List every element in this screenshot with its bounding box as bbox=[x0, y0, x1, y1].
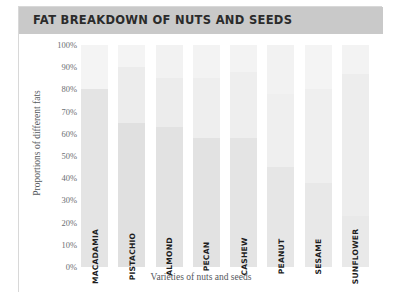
bar-segment-middle[interactable] bbox=[267, 94, 294, 167]
y-axis-tick: 10% bbox=[41, 240, 77, 250]
x-axis-category-label: PEANUT bbox=[276, 239, 285, 275]
y-axis-tick: 60% bbox=[41, 129, 77, 139]
y-axis-tick: 50% bbox=[41, 151, 77, 161]
y-axis-tick: 30% bbox=[41, 195, 77, 205]
y-axis-tick: 0% bbox=[41, 262, 77, 272]
y-axis-tick: 20% bbox=[41, 218, 77, 228]
y-axis-tick-labels: 100%90%80%70%60%50%40%30%20%10%0% bbox=[41, 45, 77, 267]
bar-column[interactable]: SUNFLOWER bbox=[342, 45, 369, 267]
bar-segment-top[interactable] bbox=[193, 45, 220, 78]
chart-title-band: FAT BREAKDOWN OF NUTS AND SEEDS bbox=[19, 7, 383, 34]
x-axis-category-label: CASHEW bbox=[239, 237, 248, 275]
bar-segment-top[interactable] bbox=[81, 45, 108, 89]
bar-column[interactable]: PECAN bbox=[193, 45, 220, 267]
y-axis-tick: 100% bbox=[41, 40, 77, 50]
x-axis-category-label: SESAME bbox=[314, 239, 323, 275]
bar-segment-middle[interactable] bbox=[230, 72, 257, 139]
bar-segment-middle[interactable] bbox=[118, 67, 145, 123]
x-axis-category-label: ALMOND bbox=[165, 237, 174, 276]
x-axis-category-label: PECAN bbox=[202, 242, 211, 272]
bar-segment-top[interactable] bbox=[305, 45, 332, 89]
plot-area: Proportions of different fats 100%90%80%… bbox=[19, 34, 383, 293]
bar-column[interactable]: PISTACHIO bbox=[118, 45, 145, 267]
bar-column[interactable]: MACADAMIA bbox=[81, 45, 108, 267]
bar-segment-top[interactable] bbox=[156, 45, 183, 78]
bar-column[interactable]: PEANUT bbox=[267, 45, 294, 267]
bar-segment-top[interactable] bbox=[230, 45, 257, 72]
bar-segment-top[interactable] bbox=[342, 45, 369, 74]
y-axis-tick: 40% bbox=[41, 173, 77, 183]
bar-segment-middle[interactable] bbox=[342, 74, 369, 216]
bar-segment-top[interactable] bbox=[267, 45, 294, 94]
x-axis-title: Varieties of nuts and seeds bbox=[19, 272, 383, 282]
chart-card: FAT BREAKDOWN OF NUTS AND SEEDS Proporti… bbox=[18, 6, 382, 292]
chart-screenshot: FAT BREAKDOWN OF NUTS AND SEEDS Proporti… bbox=[0, 0, 400, 306]
y-axis-tick: 70% bbox=[41, 107, 77, 117]
bar-segment-middle[interactable] bbox=[305, 89, 332, 182]
chart-title: FAT BREAKDOWN OF NUTS AND SEEDS bbox=[33, 13, 292, 27]
bar-segment-top[interactable] bbox=[118, 45, 145, 67]
bar-segment-middle[interactable] bbox=[193, 78, 220, 138]
bar-column[interactable]: SESAME bbox=[305, 45, 332, 267]
bar-segment-middle[interactable] bbox=[156, 78, 183, 127]
bar-column[interactable]: ALMOND bbox=[156, 45, 183, 267]
y-axis-tick: 80% bbox=[41, 84, 77, 94]
y-axis-tick: 90% bbox=[41, 62, 77, 72]
bar-column[interactable]: CASHEW bbox=[230, 45, 257, 267]
bars-container: MACADAMIAPISTACHIOALMONDPECANCASHEWPEANU… bbox=[81, 45, 369, 267]
